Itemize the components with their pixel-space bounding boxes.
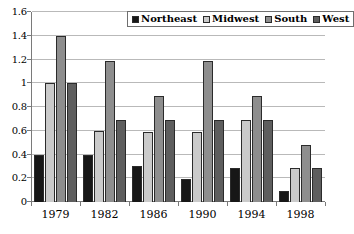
x-tick-mark bbox=[227, 202, 228, 206]
bar-midwest-1998 bbox=[290, 168, 300, 202]
bar-group bbox=[129, 12, 178, 202]
legend-entry-northeast: Northeast bbox=[132, 14, 197, 24]
bar-west-1986 bbox=[165, 120, 175, 202]
bar-south-1998 bbox=[301, 145, 311, 202]
bar-midwest-1990 bbox=[192, 132, 202, 202]
bar-south-1990 bbox=[203, 61, 213, 202]
bar-west-1982 bbox=[116, 120, 126, 202]
legend-swatch-icon bbox=[313, 16, 320, 23]
y-axis: 00.20.40.60.811.21.41.6 bbox=[0, 12, 27, 202]
x-tick-label: 1986 bbox=[129, 208, 178, 221]
bar-northeast-1994 bbox=[230, 168, 240, 202]
legend-swatch-icon bbox=[203, 16, 210, 23]
x-tick-label: 1998 bbox=[276, 208, 325, 221]
x-tick-mark bbox=[129, 202, 130, 206]
x-tick-mark bbox=[325, 202, 326, 206]
legend-swatch-icon bbox=[132, 16, 139, 23]
bar-midwest-1986 bbox=[143, 132, 153, 202]
x-tick-mark bbox=[178, 202, 179, 206]
bar-midwest-1982 bbox=[94, 131, 104, 202]
bar-west-1998 bbox=[312, 168, 322, 202]
bar-south-1979 bbox=[56, 36, 66, 202]
bar-west-1990 bbox=[214, 120, 224, 202]
y-tick-label: 1.2 bbox=[12, 55, 27, 65]
bar-group bbox=[276, 12, 325, 202]
y-tick-label: 0.4 bbox=[12, 150, 27, 160]
bar-groups bbox=[31, 12, 325, 202]
chart-legend: NortheastMidwestSouthWest bbox=[127, 11, 354, 27]
bar-midwest-1979 bbox=[45, 83, 55, 202]
bar-northeast-1979 bbox=[34, 155, 44, 203]
x-axis-labels: 197919821986199019941998 bbox=[31, 208, 325, 221]
bar-south-1982 bbox=[105, 61, 115, 202]
bar-west-1994 bbox=[263, 120, 273, 202]
legend-entry-midwest: Midwest bbox=[203, 14, 259, 24]
y-tick-label: 0.8 bbox=[12, 102, 27, 112]
bar-midwest-1994 bbox=[241, 120, 251, 202]
bar-northeast-1998 bbox=[279, 191, 289, 202]
legend-label: West bbox=[322, 14, 349, 24]
bar-group bbox=[227, 12, 276, 202]
bar-northeast-1982 bbox=[83, 155, 93, 203]
y-tick-label: 0.6 bbox=[12, 126, 27, 136]
legend-label: Northeast bbox=[141, 14, 197, 24]
x-tick-label: 1979 bbox=[31, 208, 80, 221]
y-tick-label: 1 bbox=[21, 78, 27, 88]
x-tick-label: 1994 bbox=[227, 208, 276, 221]
bar-group bbox=[80, 12, 129, 202]
bar-south-1994 bbox=[252, 96, 262, 202]
legend-label: Midwest bbox=[212, 14, 259, 24]
bar-west-1979 bbox=[67, 83, 77, 202]
x-tick-mark bbox=[276, 202, 277, 206]
bar-northeast-1990 bbox=[181, 179, 191, 202]
y-tick-label: 0.2 bbox=[12, 173, 27, 183]
legend-swatch-icon bbox=[265, 16, 272, 23]
legend-entry-west: West bbox=[313, 14, 349, 24]
x-tick-mark bbox=[31, 202, 32, 206]
bar-northeast-1986 bbox=[132, 166, 142, 202]
legend-entry-south: South bbox=[265, 14, 307, 24]
x-tick-mark bbox=[80, 202, 81, 206]
bar-group bbox=[31, 12, 80, 202]
y-tick-label: 1.6 bbox=[12, 7, 27, 17]
x-tick-label: 1990 bbox=[178, 208, 227, 221]
x-axis-ticks bbox=[31, 202, 325, 207]
bar-south-1986 bbox=[154, 96, 164, 202]
y-tick-label: 1.4 bbox=[12, 31, 27, 41]
y-tick-label: 0 bbox=[21, 197, 27, 207]
legend-label: South bbox=[274, 14, 307, 24]
x-tick-label: 1982 bbox=[80, 208, 129, 221]
bar-group bbox=[178, 12, 227, 202]
